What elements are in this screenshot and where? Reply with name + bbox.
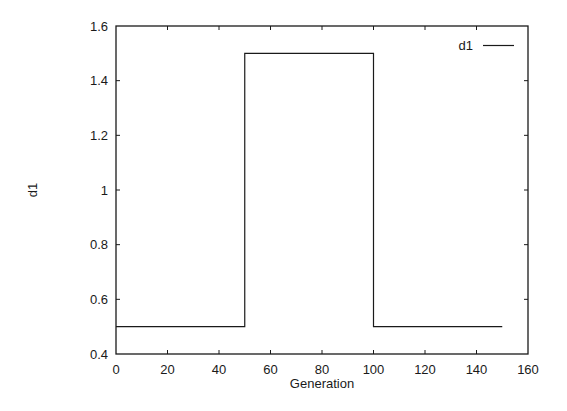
x-tick-label: 80 — [315, 362, 329, 377]
x-tick-label: 60 — [263, 362, 277, 377]
x-axis-label: Generation — [290, 376, 354, 391]
x-tick-label: 160 — [517, 362, 539, 377]
series-line-d1 — [116, 53, 502, 326]
y-tick-label: 0.8 — [90, 237, 108, 252]
step-line-chart: 020406080100120140160 0.40.60.811.21.41.… — [0, 0, 567, 411]
x-axis-ticks: 020406080100120140160 — [112, 26, 538, 377]
y-tick-label: 0.4 — [90, 347, 108, 362]
x-tick-label: 0 — [112, 362, 119, 377]
y-tick-label: 1 — [101, 183, 108, 198]
x-tick-label: 40 — [212, 362, 226, 377]
y-tick-label: 1.6 — [90, 19, 108, 34]
plot-frame — [116, 26, 528, 354]
y-tick-label: 1.2 — [90, 128, 108, 143]
y-axis-ticks: 0.40.60.811.21.41.6 — [90, 19, 528, 362]
x-tick-label: 120 — [414, 362, 436, 377]
y-tick-label: 1.4 — [90, 73, 108, 88]
x-tick-label: 100 — [363, 362, 385, 377]
y-axis-label: d1 — [25, 183, 40, 197]
x-tick-label: 20 — [160, 362, 174, 377]
legend: d1 — [459, 38, 514, 53]
data-series — [116, 53, 502, 326]
plot-frame-border — [116, 26, 528, 354]
y-tick-label: 0.6 — [90, 292, 108, 307]
legend-label-d1: d1 — [459, 38, 473, 53]
x-tick-label: 140 — [466, 362, 488, 377]
